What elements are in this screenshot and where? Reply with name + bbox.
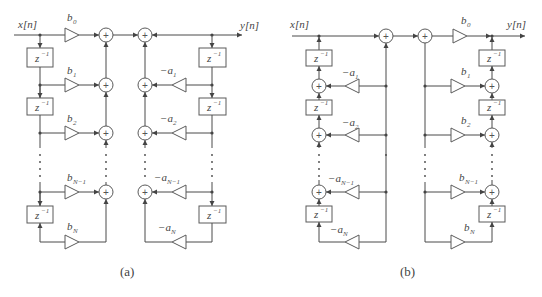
svg-text:z: z (313, 52, 319, 64)
delay-block: z −1 (306, 99, 332, 115)
gain-b1 (451, 79, 465, 93)
panel-b: x[n] z −1 + z −1 + + z −1 + (289, 14, 526, 279)
svg-text:z: z (313, 208, 319, 220)
output-label: y[n] (239, 19, 259, 31)
svg-text:N−1: N−1 (464, 178, 478, 186)
svg-text:+: + (142, 187, 148, 198)
svg-text:N: N (342, 230, 348, 238)
svg-text:+: + (142, 128, 148, 139)
svg-text:−1: −1 (320, 50, 328, 58)
gain-a2 (172, 126, 186, 140)
adder: + (312, 128, 326, 142)
adder: + (485, 79, 499, 93)
iir-filter-diagram: x[n] z −1 z −1 z −1 (0, 0, 542, 297)
svg-text:1: 1 (467, 72, 471, 80)
svg-text:z: z (206, 209, 212, 221)
delay-block: z −1 (479, 206, 505, 222)
svg-text:+: + (489, 187, 495, 198)
gain-b2 (451, 128, 465, 142)
adder: + (312, 185, 326, 199)
gain-b0 (453, 29, 467, 43)
svg-text:+: + (422, 31, 428, 42)
svg-text:2: 2 (173, 119, 177, 127)
adder: + (99, 78, 113, 92)
svg-text:−a: −a (160, 64, 173, 76)
adder: + (138, 28, 152, 42)
delay-block: z −1 (306, 206, 332, 222)
input-label: x[n] (289, 18, 309, 30)
adder: + (485, 185, 499, 199)
svg-text:z: z (486, 208, 492, 220)
svg-text:z: z (34, 209, 40, 221)
svg-text:+: + (489, 81, 495, 92)
svg-text:+: + (489, 130, 495, 141)
svg-text:+: + (142, 80, 148, 91)
svg-text:−1: −1 (493, 206, 501, 214)
svg-text:2: 2 (467, 121, 471, 129)
adder: + (379, 29, 393, 43)
svg-text:−1: −1 (320, 99, 328, 107)
svg-text:0: 0 (467, 21, 471, 29)
svg-text:−1: −1 (41, 207, 49, 215)
svg-text:N: N (170, 228, 176, 236)
adder: + (312, 79, 326, 93)
gain-bN-1 (451, 185, 465, 199)
svg-text:−a: −a (328, 172, 341, 184)
delay-block: z −1 (199, 98, 226, 115)
svg-text:z: z (34, 52, 40, 64)
svg-text:z: z (313, 101, 319, 113)
svg-text:2: 2 (355, 123, 359, 131)
adder: + (418, 29, 432, 43)
svg-text:−1: −1 (213, 207, 221, 215)
svg-text:z: z (486, 101, 492, 113)
svg-text:−a: −a (160, 112, 173, 124)
svg-text:−a: −a (330, 223, 343, 235)
adder: + (99, 185, 113, 199)
svg-text:−a: −a (342, 116, 355, 128)
svg-text:−1: −1 (493, 50, 501, 58)
svg-text:−1: −1 (493, 99, 501, 107)
svg-text:−1: −1 (213, 50, 221, 58)
delay-block: z −1 (27, 206, 53, 223)
svg-text:N−1: N−1 (340, 179, 354, 187)
svg-text:0: 0 (73, 18, 77, 26)
gain-a1 (172, 78, 186, 92)
caption-a: (a) (120, 264, 134, 279)
adder: + (99, 126, 113, 140)
input-label: x[n] (17, 18, 37, 30)
delay-block: z −1 (479, 50, 505, 66)
delay-block: z −1 (479, 99, 505, 115)
svg-text:−1: −1 (41, 50, 49, 58)
gain-b1 (65, 78, 79, 92)
svg-text:1: 1 (73, 71, 77, 79)
gain-aN (172, 235, 186, 249)
gain-bN (65, 235, 79, 249)
svg-text:z: z (34, 101, 40, 113)
svg-text:N: N (469, 228, 475, 236)
gain-a1 (345, 79, 359, 93)
svg-text:+: + (316, 187, 322, 198)
panel-a: x[n] z −1 z −1 z −1 (14, 11, 259, 279)
gain-bN (451, 235, 465, 249)
gain-b0 (65, 28, 79, 42)
svg-text:N−1: N−1 (166, 178, 180, 186)
caption-b: (b) (400, 264, 415, 279)
delay-block: z −1 (199, 48, 226, 67)
svg-text:−1: −1 (213, 99, 221, 107)
delay-block: z −1 (27, 98, 53, 115)
svg-text:1: 1 (173, 71, 177, 79)
svg-text:+: + (103, 80, 109, 91)
svg-text:−a: −a (154, 171, 167, 183)
adder: + (99, 28, 113, 42)
svg-text:−a: −a (342, 66, 355, 78)
svg-text:z: z (486, 52, 492, 64)
adder: + (138, 126, 152, 140)
adder: + (485, 128, 499, 142)
svg-text:+: + (142, 30, 148, 41)
svg-text:−a: −a (158, 221, 171, 233)
svg-text:+: + (316, 130, 322, 141)
delay-block: z −1 (199, 206, 226, 223)
svg-text:N−1: N−1 (72, 178, 86, 186)
svg-text:z: z (206, 101, 212, 113)
delay-block: z −1 (306, 50, 332, 66)
